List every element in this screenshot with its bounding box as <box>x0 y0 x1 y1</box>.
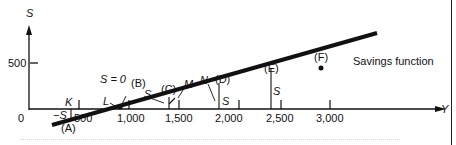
x-tick-label-2500: 2,500 <box>266 113 294 124</box>
x-tick-label-500: 500 <box>74 113 92 124</box>
S-label-D: S <box>222 96 229 107</box>
origin-label: 0 <box>18 113 24 124</box>
x-tick-label-1000: 1,000 <box>117 113 145 124</box>
y-axis-arrow-icon <box>26 25 32 35</box>
point-C-label: (C) <box>161 84 176 95</box>
x-tick-label-2000: 2,000 <box>215 113 243 124</box>
negative-s-label: −S <box>53 110 67 121</box>
N-label: N <box>200 75 208 86</box>
x-axis-label: Y <box>441 104 448 115</box>
y-tick-label-500: 500 <box>8 58 26 69</box>
right-border <box>451 0 452 145</box>
point-A-label: (A) <box>61 123 76 134</box>
M-label: M <box>184 79 193 90</box>
point-E-label: (E) <box>264 63 279 74</box>
y-axis-label: S <box>26 8 33 19</box>
savings-function-label: Savings function <box>353 56 434 67</box>
point-F-label: (F) <box>314 52 328 63</box>
x-tick-label-1500: 1,500 <box>165 113 193 124</box>
faint-caption-line <box>20 139 400 143</box>
point-D-label: (D) <box>215 74 230 85</box>
S-label-C: S <box>144 89 151 100</box>
L-label: L <box>103 96 109 107</box>
s-zero-label: S = 0 <box>100 74 126 85</box>
point-F-dot <box>319 66 324 71</box>
K-label: K <box>65 97 72 108</box>
point-B-dot <box>118 105 123 110</box>
S-label-E: S <box>273 86 280 97</box>
x-tick-label-3000: 3,000 <box>316 113 344 124</box>
